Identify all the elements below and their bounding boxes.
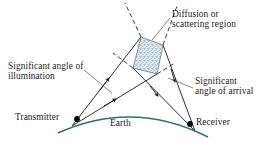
illumination-angle-label: Significant angle ofillumination [8, 61, 83, 82]
receiver-label: Receiver [196, 117, 230, 127]
earth-label: Earth [110, 118, 131, 128]
leader-line-arrival [168, 78, 193, 88]
scattering-region-label-line2: scattering region [172, 19, 236, 29]
scattering-region-label-line1: Diffusion or [172, 9, 219, 19]
arrival-angle-label-line1: Significant [195, 76, 237, 86]
receiver-ray-upper [163, 45, 195, 131]
scattering-region-label: Diffusion orscattering region [172, 9, 236, 30]
earth-arc [58, 117, 208, 137]
tropospheric-scatter-figure: Diffusion orscattering region Significan… [0, 0, 274, 143]
arrival-angle-label-line2: angle of arrival [195, 86, 253, 96]
illumination-angle-label-line2: illumination [8, 71, 55, 81]
receiver-node-icon [187, 121, 193, 127]
scattering-region [133, 37, 163, 74]
receiver-ray-lower-arrow [150, 86, 158, 96]
leader-line-diffusion [152, 18, 170, 40]
transmitter-label: Transmitter [15, 112, 59, 122]
illumination-angle-label-line1: Significant angle of [8, 61, 83, 71]
arrival-angle-label: Significantangle of arrival [195, 76, 253, 97]
scattering-region-fill [133, 37, 163, 74]
transmitter-node-icon [74, 116, 80, 122]
dashed-extension-transmitter-upper [125, 3, 141, 37]
leader-line-illumination [84, 70, 112, 93]
transmitter-ray-lower-arrow [104, 99, 116, 106]
